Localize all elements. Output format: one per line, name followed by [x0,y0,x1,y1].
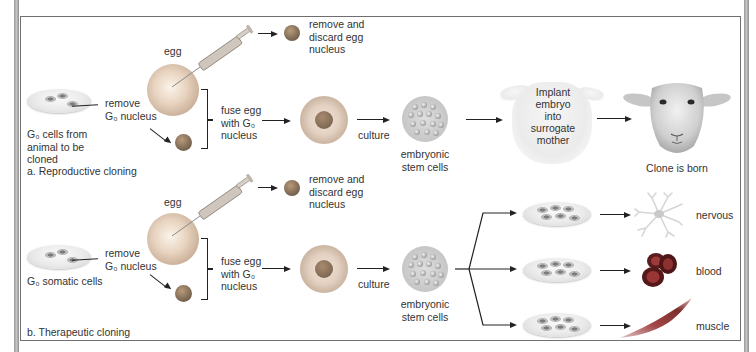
syringe-icon [170,25,260,90]
arrow-to-fused [262,120,286,121]
arrowhead [496,117,503,123]
petri-dish-icon [523,313,591,337]
nucleus-icon [284,180,300,196]
discard-nucleus-label: remove and discard egg nucleus [309,173,364,211]
branch-arrows [455,205,520,330]
fused-egg-icon [300,96,348,144]
arrowhead [383,117,390,123]
bracket-tick [207,119,213,121]
culture-label: culture [358,129,390,142]
bracket-tick [207,268,213,270]
nucleus-icon [175,134,192,151]
syringe-icon [170,174,260,239]
source-cells-label: G₀ somatic cells [27,275,103,288]
fuse-label: fuse egg with G₀ nucleus [221,255,261,293]
stem-cell-cluster-icon [402,246,448,292]
arrow-to-stem [357,268,385,269]
culture-label: culture [358,278,390,291]
stem-cells-label: embryonic stem cells [393,148,457,173]
page-edge-right [744,0,749,352]
source-cells-label: G₀ cells from animal to be cloned [27,128,117,166]
arrowhead [624,212,631,218]
petri-dish-icon [523,258,591,282]
petri-dish-icon [27,245,91,269]
arrowhead [383,266,390,272]
page-edge-left [14,0,19,352]
fused-egg-icon [300,245,348,293]
nucleus-icon [284,25,300,41]
muscle-cell-icon [618,296,698,341]
sheep-icon [622,80,732,160]
arrow-to-stem [357,119,385,120]
arrow-to-blood [600,270,626,271]
panel-a-title: a. Reproductive cloning [27,165,137,177]
arrowhead [271,31,278,37]
implant-label: Implant embryo into surrogate mother [524,86,582,146]
discard-nucleus-label: remove and discard egg nucleus [309,18,364,56]
fuse-label: fuse egg with G₀ nucleus [221,104,261,142]
arrowhead [284,118,291,124]
panel-b-title: b. Therapeutic cloning [27,326,130,338]
arrowhead [624,268,631,274]
arrow-to-nervous [600,214,626,215]
arrowhead [271,185,278,191]
red-blood-cell-icon [640,250,680,288]
arrow-to-fused [262,268,286,269]
figure-frame [20,16,741,341]
petri-dish-icon [27,89,91,113]
tissue-muscle-label: muscle [696,320,729,333]
arrow-to-implant [466,119,498,120]
neuron-icon [634,192,684,238]
stem-cell-cluster-icon [402,96,448,142]
stem-cells-label: embryonic stem cells [393,298,457,323]
nucleus-icon [175,285,192,302]
tissue-blood-label: blood [696,265,722,278]
arrowhead [284,266,291,272]
clone-born-label: Clone is born [637,162,717,175]
tissue-nervous-label: nervous [696,209,733,222]
petri-dish-icon [523,202,591,226]
